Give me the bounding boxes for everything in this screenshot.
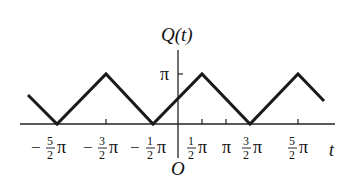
svg-text:3: 3 bbox=[243, 134, 249, 148]
svg-text:2: 2 bbox=[47, 148, 53, 162]
svg-text:−: − bbox=[130, 138, 140, 157]
svg-text:5: 5 bbox=[47, 134, 53, 148]
x-axis-label: t bbox=[329, 140, 335, 160]
svg-text:−: − bbox=[31, 138, 41, 157]
x-tick-label-5-2: 5 2 π bbox=[288, 134, 308, 162]
svg-text:2: 2 bbox=[99, 148, 105, 162]
svg-text:π: π bbox=[109, 137, 118, 157]
x-tick-label-1: π bbox=[222, 137, 231, 157]
x-tick-label-1-2: 1 2 π bbox=[187, 134, 207, 162]
svg-text:1: 1 bbox=[147, 134, 153, 148]
svg-text:2: 2 bbox=[188, 148, 194, 162]
svg-text:π: π bbox=[57, 137, 66, 157]
svg-text:π: π bbox=[157, 137, 166, 157]
triangle-wave-curve bbox=[28, 74, 324, 124]
svg-text:−: − bbox=[83, 138, 93, 157]
origin-label: O bbox=[171, 158, 185, 179]
svg-text:2: 2 bbox=[243, 148, 249, 162]
svg-text:π: π bbox=[222, 137, 231, 157]
svg-text:3: 3 bbox=[99, 134, 105, 148]
svg-text:2: 2 bbox=[147, 148, 153, 162]
y-axis-label: Q(t) bbox=[161, 24, 193, 46]
svg-text:5: 5 bbox=[289, 134, 295, 148]
svg-text:π: π bbox=[299, 137, 308, 157]
svg-text:2: 2 bbox=[289, 148, 295, 162]
x-tick-label-3-2: 3 2 π bbox=[242, 134, 262, 162]
x-tick-label-neg-1-2: − 1 2 π bbox=[130, 134, 166, 162]
svg-text:π: π bbox=[253, 137, 262, 157]
x-ticks bbox=[106, 119, 298, 124]
svg-text:1: 1 bbox=[188, 134, 194, 148]
y-tick-label: π bbox=[160, 64, 169, 84]
svg-text:π: π bbox=[198, 137, 207, 157]
x-tick-label-neg-3-2: − 3 2 π bbox=[83, 134, 118, 162]
x-tick-label-neg-5-2: − 5 2 π bbox=[31, 134, 66, 162]
triangle-wave-diagram: Q(t) π t O − 5 2 π − 3 2 π − 1 2 π 1 2 π… bbox=[0, 0, 352, 191]
